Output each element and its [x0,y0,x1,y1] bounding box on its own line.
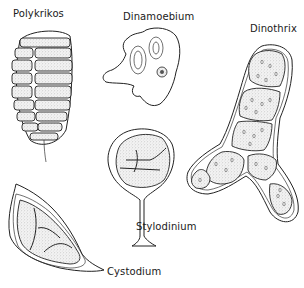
label-dinothrix: Dinothrix [250,23,297,34]
label-stylodinium: Stylodinium [136,221,197,232]
illustration-canvas: Polykrikos Dinamoebium Dinothrix Stylodi… [0,0,304,288]
label-polykrikos: Polykrikos [13,8,64,19]
polykrikos-drawing [12,31,72,162]
dinoflagellates-drawing [0,0,304,288]
dinothrix-drawing [187,45,298,222]
label-dinamoebium: Dinamoebium [123,11,194,22]
label-cystodium: Cystodium [107,266,161,277]
dinamoebium-drawing [103,28,180,106]
cystodium-drawing [9,184,104,271]
